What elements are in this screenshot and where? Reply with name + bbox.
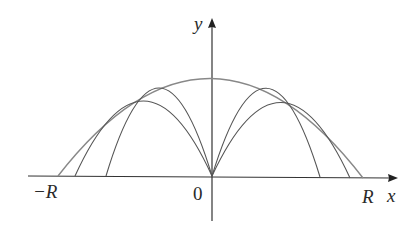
x-axis-label: x: [387, 186, 395, 205]
envelope-curve: [58, 78, 363, 178]
y-axis-label: y: [194, 14, 202, 33]
pos-r-label: R: [362, 187, 374, 206]
left-shallow-curve: [75, 101, 212, 176]
right-steep-curve: [212, 88, 320, 177]
x-axis: [28, 174, 398, 182]
left-steep-curve: [106, 88, 212, 176]
y-arrow-icon: [208, 18, 216, 28]
origin-label: 0: [193, 184, 203, 203]
x-arrow-icon: [388, 174, 398, 182]
right-shallow-curve: [212, 102, 350, 178]
trajectory-diagram: [0, 0, 417, 242]
neg-r-label: −R: [33, 182, 57, 201]
y-axis: [208, 18, 216, 221]
